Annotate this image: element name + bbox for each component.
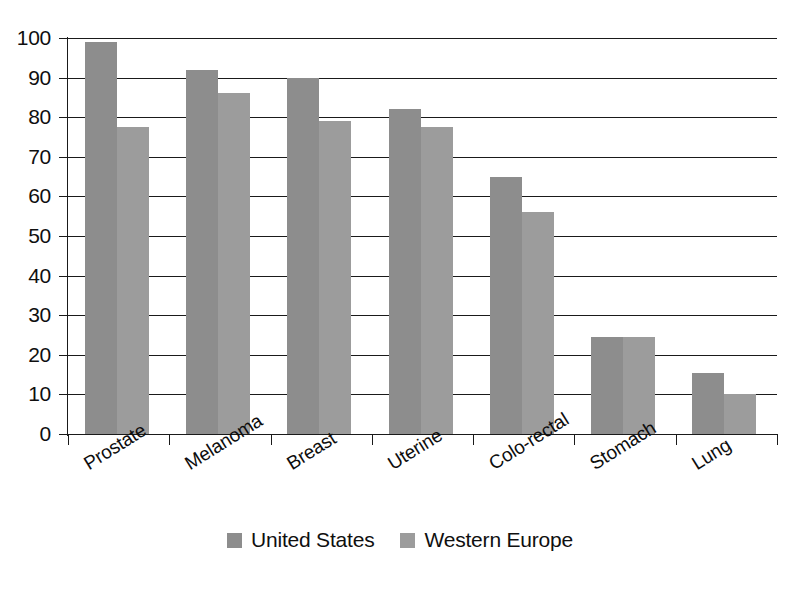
x-axis-tick bbox=[777, 434, 778, 445]
y-axis-tick-label: 20 bbox=[3, 344, 51, 365]
y-axis-tick bbox=[59, 157, 68, 158]
bar-breast-western-europe bbox=[319, 121, 351, 434]
y-axis-tick bbox=[59, 355, 68, 356]
gridline bbox=[68, 117, 777, 118]
y-axis-tick-label: 40 bbox=[3, 265, 51, 286]
y-axis-tick bbox=[59, 38, 68, 39]
legend-swatch-icon bbox=[400, 533, 415, 548]
bar-prostate-united-states bbox=[85, 42, 117, 434]
x-axis-tick bbox=[169, 434, 170, 445]
y-axis-tick-label: 0 bbox=[3, 423, 51, 444]
bar-colo-rectal-western-europe bbox=[522, 212, 554, 434]
legend-label: Western Europe bbox=[424, 528, 573, 552]
y-axis-tick-label: 80 bbox=[3, 106, 51, 127]
y-axis-tick-label: 50 bbox=[3, 225, 51, 246]
y-axis-tick bbox=[59, 78, 68, 79]
y-axis-tick-label: 10 bbox=[3, 383, 51, 404]
y-axis-tick bbox=[59, 434, 68, 435]
y-axis-tick-label: 60 bbox=[3, 185, 51, 206]
bar-lung-western-europe bbox=[724, 394, 756, 434]
legend-swatch-icon bbox=[227, 533, 242, 548]
bar-stomach-united-states bbox=[591, 337, 623, 434]
legend-item-western-europe: Western Europe bbox=[400, 528, 573, 552]
x-axis-tick bbox=[676, 434, 677, 445]
y-axis-tick bbox=[59, 394, 68, 395]
x-axis-tick bbox=[372, 434, 373, 445]
bar-melanoma-united-states bbox=[186, 70, 218, 434]
x-axis-tick bbox=[271, 434, 272, 445]
plot-area bbox=[68, 38, 777, 434]
y-axis-tick-label: 70 bbox=[3, 146, 51, 167]
bar-prostate-western-europe bbox=[117, 127, 149, 434]
bar-colo-rectal-united-states bbox=[490, 177, 522, 434]
x-axis-tick bbox=[473, 434, 474, 445]
y-axis-tick-label: 90 bbox=[3, 67, 51, 88]
gridline bbox=[68, 38, 777, 39]
bar-lung-united-states bbox=[692, 373, 724, 434]
bar-uterine-united-states bbox=[389, 109, 421, 434]
y-axis-tick bbox=[59, 276, 68, 277]
x-axis-tick bbox=[574, 434, 575, 445]
chart-legend: United StatesWestern Europe bbox=[0, 528, 800, 552]
y-axis-tick bbox=[59, 236, 68, 237]
y-axis-tick bbox=[59, 315, 68, 316]
bar-uterine-western-europe bbox=[421, 127, 453, 434]
x-axis-tick bbox=[68, 434, 69, 445]
y-axis-tick-label: 30 bbox=[3, 304, 51, 325]
legend-item-united-states: United States bbox=[227, 528, 374, 552]
y-axis-tick-label: 100 bbox=[3, 27, 51, 48]
y-axis-tick bbox=[59, 196, 68, 197]
y-axis-tick bbox=[59, 117, 68, 118]
bar-melanoma-western-europe bbox=[218, 93, 250, 434]
gridline bbox=[68, 78, 777, 79]
x-axis-label-lung: Lung bbox=[688, 434, 735, 475]
legend-label: United States bbox=[251, 528, 374, 552]
bar-chart: 0102030405060708090100 ProstateMelanomaB… bbox=[0, 0, 800, 595]
bar-breast-united-states bbox=[287, 78, 319, 434]
